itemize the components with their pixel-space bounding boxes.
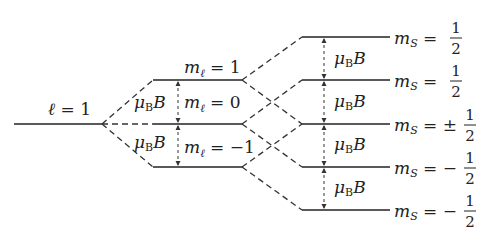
svg-text:1: 1 — [465, 106, 475, 124]
connector-ml1-to-ms1 — [242, 37, 302, 80]
gap-label-mid-1: μBB — [134, 92, 166, 114]
zeeman-splitting-diagram: ℓ = 1 mℓ = 1 mℓ = 0 mℓ = −1 μBB μBB — [0, 0, 491, 241]
label-ms-4: mS = − 1 2 — [394, 149, 476, 188]
svg-text:mS = −: mS = − — [394, 158, 457, 180]
gap-label-right-3: μBB — [334, 134, 366, 156]
label-ml-minus1: mℓ = −1 — [184, 137, 255, 160]
gap-label-right-1: μBB — [334, 48, 366, 70]
label-ml-1: mℓ = 1 — [184, 57, 241, 80]
label-ms-5: mS = − 1 2 — [394, 192, 476, 231]
label-ms-1: mS = 1 2 — [394, 19, 462, 58]
gap-label-right-2: μBB — [334, 91, 366, 113]
connector-mlm1-to-ms5 — [242, 167, 302, 210]
label-ms-2: mS = 1 2 — [394, 62, 462, 101]
svg-text:2: 2 — [465, 127, 475, 145]
svg-text:2: 2 — [451, 40, 461, 58]
gap-label-right-4: μBB — [334, 177, 366, 199]
svg-text:2: 2 — [465, 170, 475, 188]
label-ml-0: mℓ = 0 — [184, 92, 241, 115]
label-ms-3: mS = ± 1 2 — [394, 106, 476, 145]
svg-text:1: 1 — [451, 19, 461, 37]
svg-text:mS =: mS = — [394, 71, 437, 93]
svg-text:1: 1 — [451, 62, 461, 80]
gap-label-mid-2: μBB — [134, 132, 166, 154]
svg-text:2: 2 — [451, 83, 461, 101]
label-l1: ℓ = 1 — [48, 99, 91, 119]
svg-text:mS = ±: mS = ± — [394, 115, 457, 137]
svg-text:mS =: mS = — [394, 28, 437, 50]
svg-text:2: 2 — [465, 213, 475, 231]
svg-text:1: 1 — [465, 192, 475, 210]
svg-text:mS = −: mS = − — [394, 201, 457, 223]
svg-text:1: 1 — [465, 149, 475, 167]
